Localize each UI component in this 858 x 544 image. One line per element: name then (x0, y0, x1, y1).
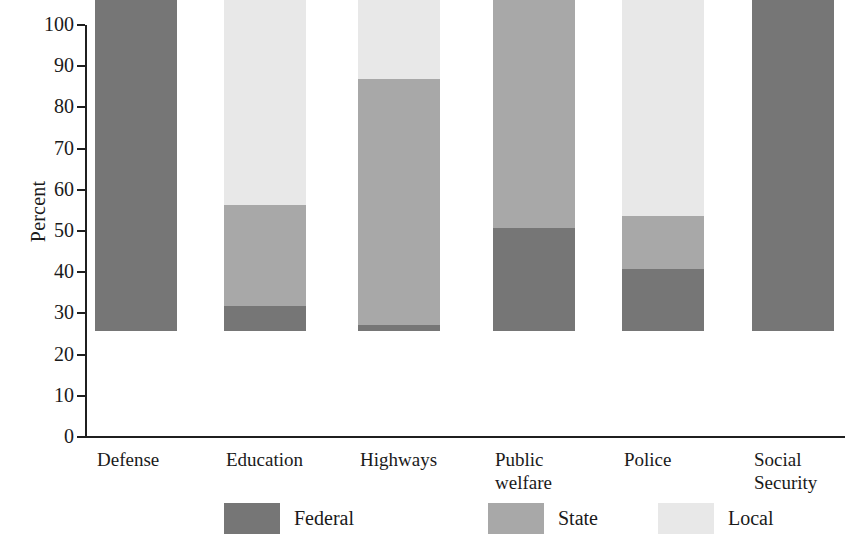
legend-label-federal: Federal (294, 507, 354, 530)
legend-item-local[interactable]: Local (658, 500, 774, 536)
bar-segment-state (224, 205, 306, 306)
legend-label-local: Local (728, 507, 774, 530)
bar-segment-local (622, 0, 704, 216)
bar-segment-federal (493, 228, 575, 331)
x-axis-label-social-security: Social Security (754, 448, 817, 494)
legend-item-federal[interactable]: Federal (224, 500, 354, 536)
x-axis-label-defense: Defense (97, 448, 159, 471)
legend-swatch-state (488, 503, 544, 534)
bar-segment-state (622, 216, 704, 270)
bar-segment-federal (224, 306, 306, 331)
legend-swatch-local (658, 503, 714, 534)
bar-stack (493, 0, 575, 331)
bar-stack (622, 0, 704, 331)
bar-segment-local (358, 0, 440, 79)
bar-segment-state (493, 0, 575, 228)
x-axis-label-education: Education (226, 448, 303, 471)
bar-stack (752, 0, 834, 331)
bar-stack (358, 0, 440, 331)
legend-label-state: State (558, 507, 598, 530)
plot-area (0, 0, 858, 438)
stacked-bar-chart: Percent 0102030405060708090100 DefenseEd… (0, 0, 858, 544)
bar-segment-state (358, 79, 440, 325)
bar-segment-federal (622, 269, 704, 331)
bar-segment-federal (95, 0, 177, 331)
legend-swatch-federal (224, 503, 280, 534)
x-axis-label-police: Police (624, 448, 672, 471)
bar-segment-federal (358, 325, 440, 331)
bar-segment-local (224, 0, 306, 205)
x-axis-label-highways: Highways (360, 448, 437, 471)
bar-stack (95, 0, 177, 331)
bar-segment-federal (752, 0, 834, 331)
bar-stack (224, 0, 306, 331)
legend-item-state[interactable]: State (488, 500, 598, 536)
chart-legend: FederalStateLocal (0, 500, 858, 544)
x-axis-label-public-welfare: Public welfare (495, 448, 552, 494)
